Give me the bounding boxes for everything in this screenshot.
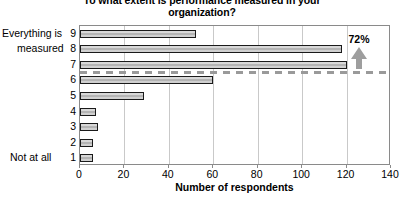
y-tick-6: 6	[62, 73, 76, 85]
x-tick-60: 60	[192, 168, 232, 180]
x-tick-mark-80	[257, 165, 258, 168]
y-axis-anchor-bottom: Not at all	[10, 151, 51, 163]
up-arrow-icon	[336, 45, 382, 71]
x-tick-mark-0	[79, 165, 80, 168]
x-tick-20: 20	[103, 168, 143, 180]
x-axis-title: Number of respondents	[79, 181, 390, 193]
bar-4	[80, 108, 96, 116]
bar-8	[80, 45, 342, 53]
annotation-label: 72%	[336, 33, 382, 45]
x-tick-mark-20	[123, 165, 124, 168]
x-tick-0: 0	[59, 168, 99, 180]
bar-chart: To what extent is performance measured i…	[0, 0, 404, 197]
y-tick-9: 9	[62, 27, 76, 39]
y-tick-1: 1	[62, 151, 76, 163]
y-tick-8: 8	[62, 42, 76, 54]
x-tick-mark-120	[346, 165, 347, 168]
y-axis-anchor-top-line2: measured	[17, 42, 64, 54]
y-tick-4: 4	[62, 105, 76, 117]
bar-7	[80, 61, 347, 69]
bar-row	[80, 150, 390, 165]
bar-1	[80, 154, 93, 162]
bar-row	[80, 135, 390, 151]
x-tick-mark-40	[168, 165, 169, 168]
x-tick-40: 40	[148, 168, 188, 180]
x-tick-120: 120	[326, 168, 366, 180]
bar-row	[80, 104, 390, 120]
bar-row	[80, 73, 390, 89]
x-tick-mark-100	[301, 165, 302, 168]
bar-row	[80, 119, 390, 135]
x-tick-80: 80	[237, 168, 277, 180]
y-tick-2: 2	[62, 136, 76, 148]
bar-3	[80, 123, 98, 131]
x-tick-mark-60	[212, 165, 213, 168]
chart-title: To what extent is performance measured i…	[60, 0, 344, 18]
x-tick-140: 140	[370, 168, 404, 180]
bar-2	[80, 139, 93, 147]
bar-row	[80, 88, 390, 104]
bar-9	[80, 30, 196, 38]
y-tick-3: 3	[62, 120, 76, 132]
bar-6	[80, 76, 213, 84]
annotation-72-percent: 72%	[336, 33, 382, 71]
y-axis-anchor-top-line1: Everything is	[2, 27, 62, 39]
y-tick-7: 7	[62, 58, 76, 70]
y-tick-5: 5	[62, 89, 76, 101]
x-tick-100: 100	[281, 168, 321, 180]
plot-area: 72%	[79, 25, 390, 165]
reference-dashed-line	[80, 71, 389, 74]
bar-5	[80, 92, 144, 100]
x-tick-mark-140	[390, 165, 391, 168]
